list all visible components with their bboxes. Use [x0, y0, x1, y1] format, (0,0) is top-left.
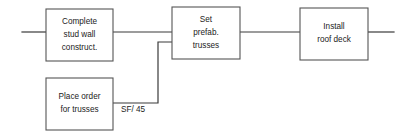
- node-place-order-for-trusses-line-1: Place order: [59, 92, 101, 101]
- node-install-roof-deck-line-1: Install: [323, 22, 345, 31]
- flowchart-diagram: Complete stud wall construct. Set prefab…: [0, 0, 413, 139]
- edge-place-order-to-set-trusses: [113, 42, 172, 103]
- node-set-prefab-trusses[interactable]: Set prefab. trusses: [172, 7, 240, 59]
- node-install-roof-deck[interactable]: Install roof deck: [300, 8, 368, 60]
- node-set-prefab-trusses-line-3: trusses: [193, 41, 219, 50]
- node-install-roof-deck-line-2: roof deck: [317, 35, 352, 44]
- node-place-order-for-trusses-box: [46, 78, 113, 130]
- node-complete-stud-wall[interactable]: Complete stud wall construct.: [46, 9, 113, 61]
- node-set-prefab-trusses-line-1: Set: [200, 15, 213, 24]
- node-complete-stud-wall-line-3: construct.: [62, 43, 98, 52]
- node-set-prefab-trusses-line-2: prefab.: [193, 28, 219, 37]
- node-install-roof-deck-box: [300, 8, 368, 60]
- edge-label-sf-45: SF/ 45: [121, 105, 146, 114]
- node-place-order-for-trusses[interactable]: Place order for trusses: [46, 78, 113, 130]
- node-place-order-for-trusses-line-2: for trusses: [60, 105, 98, 114]
- node-complete-stud-wall-line-2: stud wall: [64, 30, 96, 39]
- diagram-canvas: Complete stud wall construct. Set prefab…: [0, 0, 413, 139]
- node-complete-stud-wall-line-1: Complete: [62, 17, 97, 26]
